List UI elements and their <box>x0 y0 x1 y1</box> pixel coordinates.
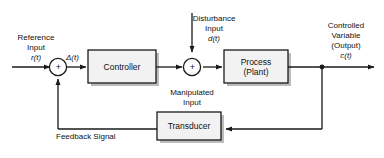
process-block-label-line2: (Plant) <box>224 67 288 77</box>
controlled-variable-symbol: c(t) <box>310 51 382 61</box>
controlled-variable-label-line3: (Output) <box>310 41 382 51</box>
manipulated-input-label-line2: Input <box>148 98 236 108</box>
disturbance-input-symbol: d(t) <box>170 34 258 44</box>
controlled-variable-label-line2: Variable <box>310 31 382 41</box>
controlled-variable-label-line1: Controlled <box>310 21 382 31</box>
disturbance-input-label-line2: Input <box>170 24 258 34</box>
block-diagram-canvas: + + Controller Process (Plant) Transduce… <box>0 0 384 158</box>
error-signal-symbol: Δ(t) <box>66 53 79 63</box>
manipulated-input-label-line1: Manipulated <box>148 88 236 98</box>
output-takeoff-dot <box>320 65 325 70</box>
feedback-signal-label: Feedback Signal <box>56 132 116 142</box>
reference-input-symbol: r(t) <box>5 53 67 63</box>
transducer-block-label: Transducer <box>157 121 221 131</box>
sum-disturbance-sign: + <box>188 63 197 72</box>
reference-input-label-line1: Reference <box>5 33 67 43</box>
controller-block-label: Controller <box>88 62 156 72</box>
reference-input-label-line2: Input <box>5 43 67 53</box>
process-block-label-line1: Process <box>224 57 288 67</box>
sum-error-sign: + <box>54 63 63 72</box>
disturbance-input-label-line1: Disturbance <box>170 14 258 24</box>
